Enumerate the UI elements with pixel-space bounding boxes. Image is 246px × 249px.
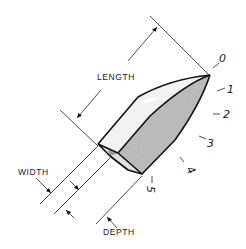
- station-mark-2: 2: [223, 108, 230, 121]
- depth-label: DEPTH: [103, 227, 135, 237]
- station-mark-5: 5: [144, 186, 157, 193]
- length-extension-line-top: [150, 16, 210, 76]
- length-dimension-arrow-bottom: [77, 90, 101, 118]
- length-label: LENGTH: [97, 72, 135, 82]
- length-dimension-arrow-top: [128, 27, 157, 61]
- width-label: WIDTH: [18, 167, 49, 177]
- station-tick-4: [180, 157, 184, 162]
- width-extension-line-2: [54, 158, 110, 214]
- station-mark-1: 1: [227, 83, 234, 96]
- station-tick-3: [199, 136, 206, 139]
- width-arrow-1: [36, 178, 51, 193]
- station-mark-4: 4: [183, 164, 198, 177]
- depth-extension-line: [96, 176, 142, 224]
- width-arrow-3: [66, 210, 74, 218]
- station-mark-0: 0: [219, 52, 226, 65]
- station-mark-3: 3: [207, 137, 214, 150]
- width-arrow-2: [70, 181, 79, 190]
- tool-diagram: LENGTH WIDTH DEPTH 0 1 2 3 4 5: [0, 0, 246, 249]
- station-tick-1: [217, 88, 225, 91]
